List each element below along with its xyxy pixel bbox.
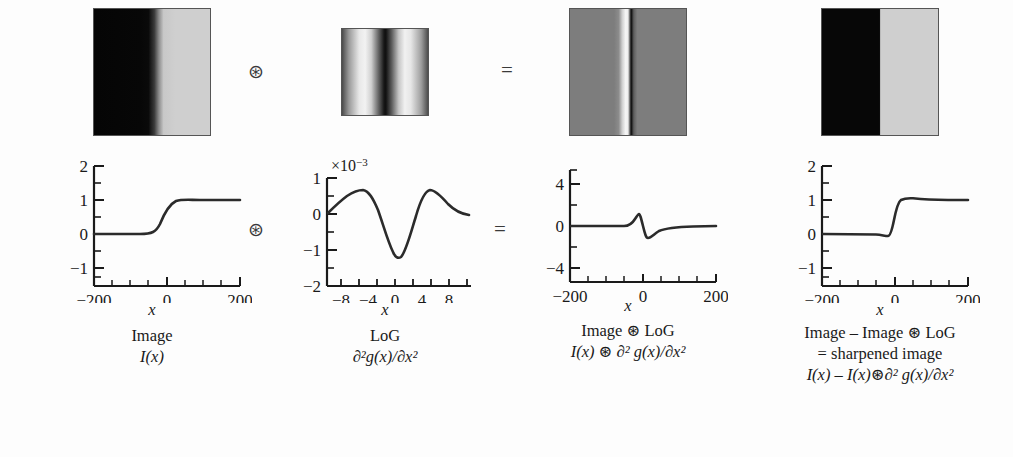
svg-text:1: 1 <box>80 191 89 210</box>
plot-conv-profile: 4 0 −4 −200 0 200 <box>528 158 728 303</box>
log-patch-wrapper <box>285 28 485 116</box>
sharpened-profile-chart: 2 1 0 −1 −200 0 200 <box>780 158 980 303</box>
plot-sharpened-profile: 2 1 0 −1 −200 0 200 <box>780 158 980 303</box>
svg-text:0: 0 <box>80 225 89 244</box>
caption-line-image: Image <box>38 325 266 346</box>
svg-text:−4: −4 <box>546 259 565 278</box>
sharpened-image-patch <box>821 8 939 136</box>
log-sharpening-figure: ⊛ = ⊛ = <box>0 0 1013 457</box>
x-axis-label-sharp: x <box>780 300 980 320</box>
sharp-patch-wrapper <box>780 8 980 136</box>
image-profile-chart: 2 1 0 −1 −200 0 200 <box>52 158 252 303</box>
x-axis-label-conv: x <box>528 296 728 316</box>
svg-text:0: 0 <box>313 205 322 224</box>
formula-log: ∂²g(x)/∂x² <box>271 346 499 367</box>
column-image: 2 1 0 −1 −200 0 200 x Image I(x) <box>52 0 252 457</box>
caption-image: Image I(x) <box>38 325 266 367</box>
x-axis-label-image: x <box>52 300 252 320</box>
conv-profile-chart: 4 0 −4 −200 0 200 <box>528 158 728 303</box>
y-axis-multiplier: ×10−3 <box>331 158 368 174</box>
svg-text:−1: −1 <box>798 259 816 278</box>
plot-log-profile: ×10−3 1 <box>285 158 485 303</box>
svg-text:0: 0 <box>556 217 565 236</box>
caption-log: LoG ∂²g(x)/∂x² <box>271 325 499 367</box>
svg-text:2: 2 <box>808 158 817 176</box>
equals-operator-top: = <box>492 60 522 81</box>
column-sharpened: 2 1 0 −1 −200 0 200 x Image – Image ⊛ Lo… <box>780 0 980 457</box>
plot-image-profile: 2 1 0 −1 −200 0 200 <box>52 158 252 303</box>
log-profile-chart: ×10−3 1 <box>285 158 485 303</box>
svg-text:−1: −1 <box>303 241 321 260</box>
caption-line-sharp-1: Image – Image ⊛ LoG <box>766 322 994 343</box>
column-log: ×10−3 1 <box>285 0 485 457</box>
caption-sharp: Image – Image ⊛ LoG = sharpened image I(… <box>766 322 994 385</box>
column-convolution: 4 0 −4 −200 0 200 x Image ⊛ LoG I(x) ⊛ ∂… <box>528 0 728 457</box>
conv-patch-wrapper <box>528 8 728 136</box>
formula-sharp: I(x) – I(x)⊛∂² g(x)/∂x² <box>766 364 994 385</box>
log-kernel-patch <box>341 28 429 116</box>
equals-operator-bottom: = <box>485 219 515 240</box>
caption-conv: Image ⊛ LoG I(x) ⊛ ∂² g(x)/∂x² <box>514 320 742 362</box>
image-convolved-log-patch <box>569 8 687 136</box>
x-axis-label-log: x <box>285 300 485 320</box>
caption-line-log: LoG <box>271 325 499 346</box>
svg-text:1: 1 <box>808 191 817 210</box>
formula-image: I(x) <box>38 346 266 367</box>
image-patch-step-edge <box>93 8 211 136</box>
caption-line-sharp-2: = sharpened image <box>766 343 994 364</box>
svg-text:0: 0 <box>808 225 817 244</box>
svg-text:1: 1 <box>313 169 322 188</box>
formula-conv: I(x) ⊛ ∂² g(x)/∂x² <box>514 341 742 362</box>
caption-line-conv: Image ⊛ LoG <box>514 320 742 341</box>
image-patch-wrapper <box>52 8 252 136</box>
svg-text:−1: −1 <box>70 259 88 278</box>
svg-text:2: 2 <box>80 158 89 176</box>
svg-text:4: 4 <box>556 175 565 194</box>
svg-text:−2: −2 <box>303 277 321 296</box>
